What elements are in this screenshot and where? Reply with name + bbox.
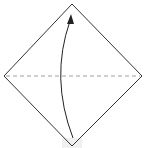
origami-diagram — [0, 0, 145, 148]
paper-diamond — [4, 4, 142, 146]
arrowhead-icon — [67, 14, 74, 24]
fold-arrow-curve — [61, 21, 73, 138]
